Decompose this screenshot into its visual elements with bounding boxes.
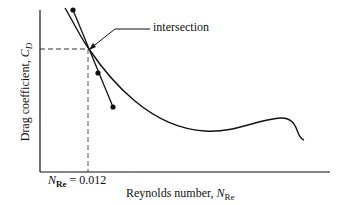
y-axis-symbol: C xyxy=(18,49,32,57)
y-axis-subscript: D xyxy=(24,43,34,50)
annotation-leader xyxy=(91,29,150,48)
x-value-label: NRe = 0.012 xyxy=(48,173,106,189)
x-value-symbol: N xyxy=(48,173,56,187)
data-point xyxy=(110,104,115,109)
drag-coefficient-diagram: intersection Drag coefficient, CD NRe = … xyxy=(0,0,348,205)
x-value-subscript: Re xyxy=(56,179,67,189)
y-axis-label: Drag coefficient, CD xyxy=(18,43,34,142)
arrow-head-icon xyxy=(89,43,96,50)
x-axis-label-text: Reynolds number, xyxy=(126,186,217,200)
y-axis-label-text: Drag coefficient, xyxy=(18,57,32,141)
x-axis-subscript: Re xyxy=(225,192,235,202)
data-point xyxy=(70,7,75,12)
x-value-text: = 0.012 xyxy=(67,173,107,187)
data-point xyxy=(95,70,100,75)
trial-line xyxy=(73,10,113,107)
intersection-label: intersection xyxy=(153,20,209,35)
x-axis-symbol: N xyxy=(217,186,225,200)
x-axis-label: Reynolds number, NRe xyxy=(126,186,235,202)
